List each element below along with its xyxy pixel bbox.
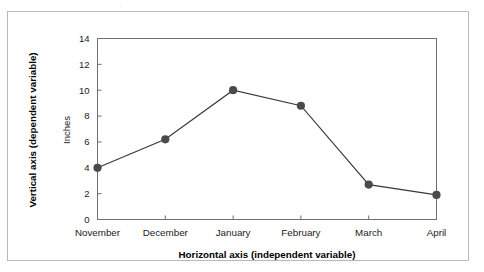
data-point-marker — [161, 135, 169, 143]
data-point-marker — [297, 102, 305, 110]
y-axis-tick-label: 10 — [79, 85, 90, 96]
plot-area-frame — [98, 39, 437, 220]
data-point-marker — [93, 164, 101, 172]
x-axis-tick-label: November — [75, 227, 121, 238]
line-chart: 02468101214 NovemberDecemberJanuaryFebru… — [0, 0, 484, 272]
y-axis-title: Vertical axis (dependent variable) — [27, 52, 38, 207]
y-axis-unit-label: Inches — [61, 116, 72, 144]
x-axis-title: Horizontal axis (independent variable) — [179, 249, 356, 260]
y-axis-tick-label: 2 — [84, 188, 89, 199]
y-axis-tick-label: 6 — [84, 136, 89, 147]
x-axis-tick-label: March — [355, 227, 382, 238]
y-axis-tick-label: 0 — [84, 214, 89, 225]
data-point-marker — [432, 191, 440, 199]
y-axis-tick-label: 12 — [79, 59, 90, 70]
x-axis-tick-label: April — [427, 227, 447, 238]
y-axis-tick-label: 8 — [84, 110, 89, 121]
data-point-marker — [229, 86, 237, 94]
y-axis-tick-label: 4 — [84, 162, 89, 173]
x-axis-tick-label: December — [143, 227, 189, 238]
data-point-marker — [365, 180, 373, 188]
x-axis-tick-label: February — [281, 227, 320, 238]
x-axis-tick-label: January — [216, 227, 251, 238]
y-axis-tick-label: 14 — [79, 33, 90, 44]
x-axis-tick-labels: NovemberDecemberJanuaryFebruaryMarchApri… — [75, 227, 446, 238]
figure-root: . 02468101214 NovemberDecemberJanuaryFeb… — [0, 0, 484, 272]
